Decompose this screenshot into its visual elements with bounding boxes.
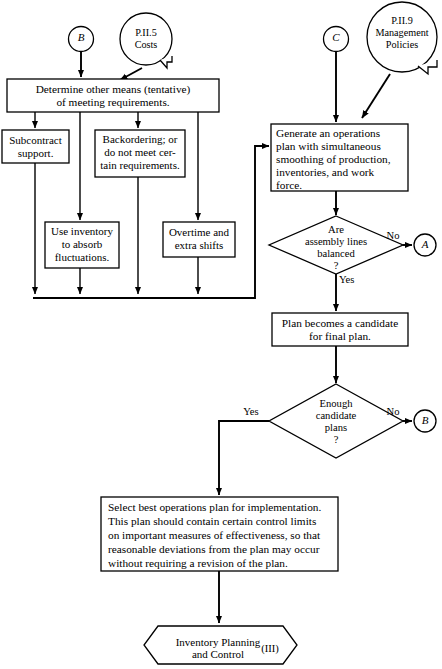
decision-enough-line1: Enough [296,398,376,410]
decision-assembly-line3: balanced [286,248,386,260]
box-select-best-line1: Select best operations plan for implemen… [108,501,334,515]
edge-policies-to-generate [362,74,390,118]
decision-enough-yes-label: Yes [238,406,264,418]
box-backordering-line1: Backordering; or [95,133,185,145]
decision-enough-line2: candidate [296,410,376,422]
box-generate-line4: inventories, and work [276,166,408,179]
decision-assembly-no-label: No [381,230,405,242]
document-costs-line1: P.II.5 [118,27,174,39]
decision-assembly-line2: assembly lines [286,236,386,248]
decision-enough-line4: ? [296,434,376,446]
document-policies-line3: Policies [370,39,434,51]
connector-b-right-label: B [414,414,436,426]
decision-assembly-line4: ? [286,260,386,272]
box-select-best-line5: without requiring a revision of the plan… [108,557,334,571]
box-determine-line2: of meeting requirements. [7,96,219,109]
document-policies-line2: Management [366,27,438,39]
decision-enough-no-label: No [381,406,405,418]
box-generate-line5: force. [276,179,408,192]
box-subcontract-line2: support. [2,147,69,159]
box-determine-line1: Determine other means (tentative) [7,83,219,96]
edge-costs-to-determine [120,68,142,80]
box-select-best-line4: reasonable deviations from the plan may … [108,543,334,557]
box-use-inventory-line1: Use inventory [45,225,119,237]
box-use-inventory-line3: fluctuations. [45,251,119,263]
document-policies-line1: P.II.9 [370,15,434,27]
connector-b-top-label: B [69,31,93,43]
connector-a-right-label: A [414,238,436,250]
box-use-inventory-line2: to absorb [45,238,119,250]
decision-assembly-yes-label: Yes [339,274,365,286]
decision-assembly-line1: Are [286,224,386,236]
box-candidate-line1: Plan becomes a candidate [272,317,408,330]
flowchart-canvas: B C P.II.5 Costs P.II.9 Management Polic… [0,0,442,669]
box-select-best-line3: on important measures of effectiveness, … [108,529,334,543]
box-backordering-line2: do not meet cer- [95,146,185,158]
connector-c-top-label: C [324,31,348,43]
document-costs-line2: Costs [118,39,174,51]
box-generate-line1: Generate an operations [276,127,408,140]
terminator-number: (III) [252,643,288,655]
edge-enough-yes-to-select [219,421,269,495]
box-backordering-line3: tain requirements. [95,159,185,171]
box-overtime-line1: Overtime and [163,226,235,238]
box-subcontract-line1: Subcontract [2,134,69,146]
box-generate-line2: plan with simultaneous [276,140,408,153]
box-candidate-line2: for final plan. [272,330,408,343]
box-select-best-line2: This plan should contain certain control… [108,515,334,529]
box-overtime-line2: extra shifts [163,239,235,251]
decision-enough-line3: plans [296,422,376,434]
box-generate-line3: smoothing of production, [276,153,408,166]
